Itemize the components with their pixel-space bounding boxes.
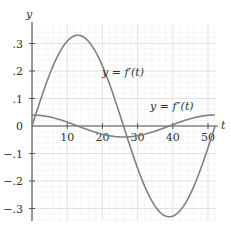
y-axis-label: y bbox=[25, 8, 33, 21]
annotation-f-double-prime: y = f″(t) bbox=[149, 100, 194, 113]
x-tick-label: 30 bbox=[131, 131, 145, 144]
y-tick-label: .2 bbox=[13, 65, 24, 78]
y-tick-label: .3 bbox=[13, 38, 24, 51]
y-tick-label: −.3 bbox=[3, 203, 23, 216]
y-tick-label: 0 bbox=[16, 120, 23, 133]
y-tick-label: −.2 bbox=[3, 175, 23, 188]
annotation-f-prime: y = f′(t) bbox=[101, 66, 144, 79]
x-tick-label: 40 bbox=[166, 131, 180, 144]
y-tick-label: .1 bbox=[13, 93, 24, 106]
x-axis-label: t bbox=[221, 119, 226, 132]
chart: 1020304050−.3−.2−.10.1.2.3 y t y = f′(t)… bbox=[0, 0, 231, 229]
y-tick-label: −.1 bbox=[3, 148, 23, 161]
x-tick-label: 10 bbox=[60, 131, 74, 144]
